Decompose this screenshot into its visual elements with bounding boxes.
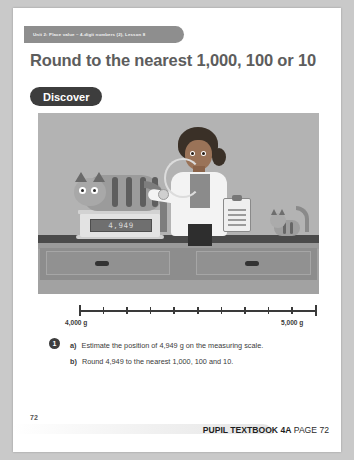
- kitten-ear-icon: [279, 209, 285, 215]
- footer-page-label: PAGE 72: [294, 425, 329, 435]
- clipboard-line: [228, 224, 246, 226]
- number-line-minor-tick: [244, 307, 246, 314]
- number-line-minor-tick: [126, 307, 128, 314]
- vet-eye-icon: [201, 151, 206, 156]
- clipboard-icon: [223, 198, 251, 232]
- unit-header-text: Unit 2: Place value – 4-digit numbers (2…: [24, 32, 145, 37]
- question-part-b-text: Round 4,949 to the nearest 1,000, 100 an…: [82, 357, 233, 366]
- drawer-handle-icon: [245, 261, 259, 266]
- clipboard-clip: [232, 195, 242, 201]
- vet-weighing-cat-illustration: 4,949: [38, 113, 319, 294]
- textbook-page: Unit 2: Place value – 4-digit numbers (2…: [13, 8, 341, 452]
- clipboard-line: [228, 219, 246, 221]
- number-line-minor-tick: [150, 307, 152, 314]
- cat-ear-icon: [75, 172, 87, 182]
- question-part-a-text: Estimate the position of 4,949 g on the …: [82, 341, 264, 350]
- number-line-major-tick: [315, 305, 317, 316]
- clipboard-line: [228, 209, 246, 211]
- footer-bar: PUPIL TEXTBOOK 4A PAGE 72: [13, 422, 341, 452]
- footer-label: PUPIL TEXTBOOK 4A PAGE 72: [203, 425, 329, 435]
- cat-head: [74, 178, 106, 206]
- number-line-minor-tick: [268, 307, 270, 314]
- question-block: 1 a) Estimate the position of 4,949 g on…: [49, 338, 329, 370]
- page-number: 72: [30, 414, 38, 421]
- kitten-head: [270, 213, 286, 228]
- desk-drawer-left: [46, 251, 170, 275]
- kitten-tail: [296, 206, 309, 232]
- kitten-ear-icon: [271, 209, 277, 215]
- number-line-minor-tick: [221, 307, 223, 314]
- number-line-major-tick: [79, 305, 81, 316]
- discover-badge: Discover: [30, 87, 102, 106]
- drawer-handle-icon: [95, 261, 109, 266]
- vet-trousers: [188, 224, 212, 246]
- scale-reading-value: 4,949: [108, 221, 134, 230]
- cat-stripe: [126, 177, 132, 207]
- stethoscope-bell-icon: [158, 189, 169, 200]
- number-line-start-label: 4,000 g: [65, 319, 87, 326]
- vet-eye-icon: [190, 151, 195, 156]
- cat-ear-icon: [93, 172, 105, 182]
- footer-book-label: PUPIL TEXTBOOK 4A: [203, 425, 292, 435]
- measuring-scale-number-line: 4,000 g 5,000 g: [65, 304, 315, 334]
- question-part-b: b) Round 4,949 to the nearest 1,000, 100…: [49, 354, 329, 370]
- scale-digital-display: 4,949: [90, 219, 152, 232]
- cat-stripe: [112, 177, 118, 207]
- number-line-minor-tick: [291, 307, 293, 314]
- clipboard-line: [228, 214, 246, 216]
- question-part-a-marker: a): [70, 341, 77, 350]
- page-title: Round to the nearest 1,000, 100 or 10: [30, 51, 330, 70]
- stethoscope-icon: [164, 158, 202, 198]
- number-line-minor-tick: [197, 307, 199, 314]
- number-line-end-label: 5,000 g: [281, 319, 303, 326]
- number-line-minor-tick: [103, 307, 105, 314]
- question-part-b-marker: b): [70, 357, 77, 366]
- vet-hair-bun: [212, 148, 226, 166]
- discover-badge-label: Discover: [43, 91, 89, 103]
- unit-header-tab: Unit 2: Place value – 4-digit numbers (2…: [24, 26, 184, 43]
- cat-eye-icon: [91, 187, 98, 194]
- question-part-a: a) Estimate the position of 4,949 g on t…: [49, 338, 329, 354]
- kitten-stripe: [290, 222, 293, 234]
- desk-drawer-right: [196, 251, 311, 275]
- number-line-minor-tick: [173, 307, 175, 314]
- cat-eye-icon: [79, 187, 86, 194]
